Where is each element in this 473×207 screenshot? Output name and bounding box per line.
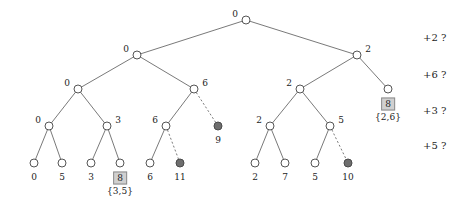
tree-node-leaf1[interactable] — [58, 159, 67, 168]
tree-node-l2d[interactable] — [384, 85, 393, 94]
tree-edge-l3f-leaf8 — [315, 126, 330, 163]
tree-node-l1b[interactable] — [353, 51, 362, 60]
tree-node-label-leaf8: 5 — [312, 173, 318, 182]
tree-edge-l1a-l2a — [78, 55, 137, 89]
tree-node-leaf4[interactable] — [146, 159, 155, 168]
tree-node-leaf7[interactable] — [281, 159, 290, 168]
tree-edge-l3e-leaf6 — [255, 126, 270, 163]
tree-edge-root-l1b — [246, 20, 357, 55]
tree-edge-l3a-leaf0 — [34, 126, 49, 163]
tree-node-label-l3f: 5 — [338, 116, 344, 125]
tree-node-l2b[interactable] — [190, 85, 199, 94]
tree-node-label-l3d: 9 — [215, 136, 221, 145]
annot-1: +2 ? — [423, 33, 446, 43]
tree-node-leaf6[interactable] — [251, 159, 260, 168]
tree-edge-l2b-l3c — [166, 89, 194, 126]
tree-edge-root-l1a — [137, 20, 246, 55]
tree-node-label-leaf0: 0 — [31, 173, 37, 182]
tree-node-label-l1b: 2 — [365, 45, 371, 54]
tree-node-label-l3e: 2 — [256, 116, 262, 125]
tree-edge-l3e-leaf7 — [270, 126, 285, 163]
box-left-set: {3,5} — [107, 187, 133, 196]
tree-node-label-l3c: 6 — [152, 116, 158, 125]
box-left-value[interactable]: 8 — [113, 172, 127, 185]
tree-edge-l3a-leaf1 — [49, 126, 62, 163]
tree-node-l3c[interactable] — [162, 122, 171, 131]
tree-node-label-l2a: 0 — [64, 79, 70, 88]
tree-edge-l3b-leaf3 — [107, 126, 120, 163]
tree-node-l1a[interactable] — [133, 51, 142, 60]
tree-node-l2c[interactable] — [296, 85, 305, 94]
tree-node-label-l3b: 3 — [115, 116, 121, 125]
tree-edge-l1a-l2b — [137, 55, 194, 89]
tree-node-l3d[interactable] — [214, 122, 223, 131]
tree-node-leaf9[interactable] — [344, 159, 353, 168]
tree-node-leaf5[interactable] — [176, 159, 185, 168]
annot-2: +6 ? — [423, 70, 446, 80]
tree-node-label-root: 0 — [232, 10, 238, 19]
box-right-value[interactable]: 8 — [381, 98, 395, 111]
tree-diagram-figure: 00206203692505361127510 8{2,6}8{3,5} +2 … — [0, 0, 473, 207]
tree-edge-l2c-l3f — [300, 89, 330, 126]
tree-node-label-l2c: 2 — [286, 79, 292, 88]
tree-node-label-leaf5: 11 — [174, 173, 185, 182]
tree-edge-l2a-l3b — [78, 89, 107, 126]
tree-node-leaf3[interactable] — [116, 159, 125, 168]
annot-4: +5 ? — [423, 141, 446, 151]
tree-edge-l1b-l2d — [357, 55, 388, 89]
tree-node-l3f[interactable] — [326, 122, 335, 131]
tree-node-label-leaf9: 10 — [342, 173, 353, 182]
tree-node-leaf0[interactable] — [30, 159, 39, 168]
tree-edge-l3b-leaf2 — [91, 126, 107, 163]
tree-edge-l2a-l3a — [49, 89, 78, 126]
tree-edge-l3c-leaf5 — [166, 126, 180, 163]
tree-node-l3b[interactable] — [103, 122, 112, 131]
tree-edge-l3c-leaf4 — [150, 126, 166, 163]
tree-node-label-l1a: 0 — [123, 45, 129, 54]
tree-node-root[interactable] — [242, 16, 251, 25]
tree-node-leaf8[interactable] — [311, 159, 320, 168]
tree-node-label-l2b: 6 — [202, 79, 208, 88]
tree-node-label-leaf1: 5 — [59, 173, 65, 182]
tree-node-label-leaf7: 7 — [282, 173, 288, 182]
tree-node-l3e[interactable] — [266, 122, 275, 131]
tree-node-leaf2[interactable] — [87, 159, 96, 168]
tree-edge-l2b-l3d — [194, 89, 218, 126]
tree-edge-l3f-leaf9 — [330, 126, 348, 163]
tree-node-label-leaf2: 3 — [88, 173, 94, 182]
tree-node-label-l3a: 0 — [35, 116, 41, 125]
tree-node-label-leaf4: 6 — [147, 173, 153, 182]
tree-node-label-leaf6: 2 — [252, 173, 258, 182]
tree-edges-layer — [0, 0, 473, 207]
tree-edge-l1b-l2c — [300, 55, 357, 89]
tree-node-l3a[interactable] — [45, 122, 54, 131]
tree-edge-l2c-l3e — [270, 89, 300, 126]
annot-3: +3 ? — [423, 106, 446, 116]
tree-node-l2a[interactable] — [74, 85, 83, 94]
box-right-set: {2,6} — [375, 113, 401, 122]
